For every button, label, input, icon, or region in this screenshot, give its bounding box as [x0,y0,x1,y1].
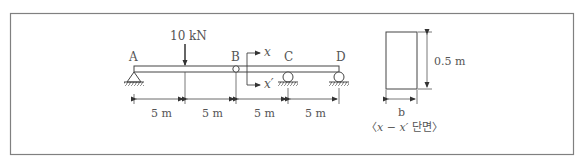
cross-section-rect [386,32,417,89]
point-label-b: B [231,50,240,64]
section-caption: 〈x − x′ 단면〉 [366,121,443,134]
hinge-icon [233,66,239,72]
section-label-x-prime: x′ [264,77,274,91]
point-label-c: C [284,50,293,64]
span-label-4: 5 m [305,107,326,120]
point-label-d: D [336,50,346,64]
diagram-canvas: A B C D 10 kN x x′ [0,0,582,164]
span-label-2: 5 m [202,107,223,120]
roller-support-d-icon [329,72,349,86]
point-label-a: A [128,50,138,64]
section-height-label: 0.5 m [434,55,466,68]
span-label-1: 5 m [151,107,172,120]
load-label: 10 kN [170,29,207,43]
span-label-3: 5 m [254,107,275,120]
section-label-x: x [264,45,271,59]
roller-support-c-icon [278,72,298,86]
section-width-label: b [398,106,405,119]
pin-support-icon [124,72,144,86]
